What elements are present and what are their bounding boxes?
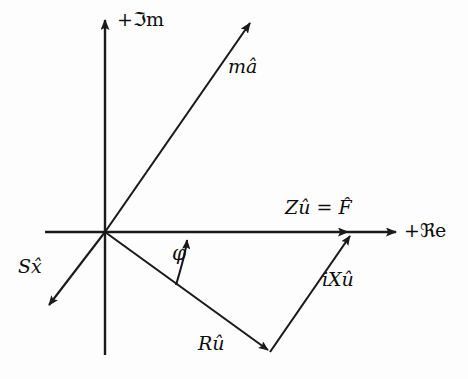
phasor-diagram: +ℑm +ℜe mâ Zû = F̂ iXû Rû Sx̂ φ bbox=[0, 0, 468, 379]
imaginary-axis-label: +ℑm bbox=[117, 10, 164, 29]
phase-angle-label-phi: φ bbox=[172, 243, 186, 263]
real-axis-label: +ℜe bbox=[404, 221, 446, 240]
vector-label-i-x-u-hat: iXû bbox=[322, 270, 354, 289]
vector-label-r-u-hat: Rû bbox=[198, 334, 225, 353]
vector-i-x-u-hat bbox=[270, 236, 350, 352]
vector-s-x-hat bbox=[49, 232, 105, 305]
vector-label-z-u-hat-equals-f-hat: Zû = F̂ bbox=[285, 198, 352, 217]
vector-label-s-x-hat: Sx̂ bbox=[18, 257, 42, 276]
vector-label-m-a-hat: mâ bbox=[228, 57, 257, 76]
